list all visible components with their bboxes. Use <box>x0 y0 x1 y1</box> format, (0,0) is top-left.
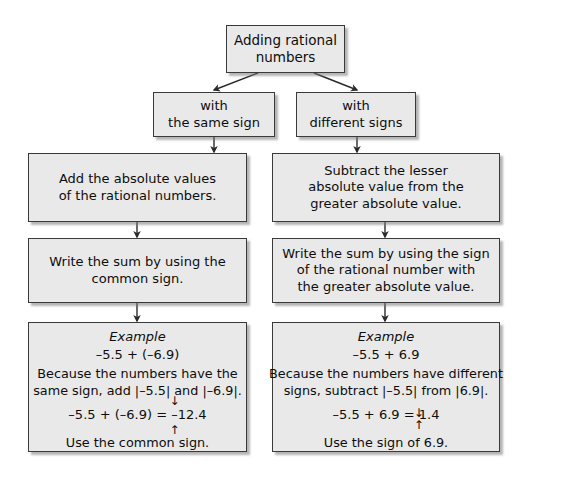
up-arrow-icon: ↑ <box>169 424 179 436</box>
left-example-footnote: Use the common sign. <box>66 435 209 451</box>
node-left-example: Example –5.5 + (–6.9) Because the number… <box>28 322 247 452</box>
flowchart-canvas: Adding rational numbers with the same si… <box>0 0 576 480</box>
node-root: Adding rational numbers <box>226 25 345 73</box>
right-branch-line-1: with <box>342 98 370 115</box>
right-step2-line-2: of the rational number with <box>297 262 476 279</box>
node-left-branch-label: with the same sign <box>153 92 275 137</box>
node-left-step-2: Write the sum by using the common sign. <box>28 238 247 303</box>
right-example-footnote: Use the sign of 6.9. <box>324 435 448 451</box>
left-example-heading: Example <box>109 329 165 346</box>
right-example-result: –5.5 + 6.9 = ↓↑1.4 <box>333 407 440 424</box>
node-right-branch-label: with different signs <box>296 92 416 137</box>
right-example-expression: –5.5 + 6.9 <box>352 347 419 364</box>
right-step1-line-3: greater absolute value. <box>310 196 462 213</box>
left-example-expression: –5.5 + (–6.9) <box>96 347 180 364</box>
left-step2-line-1: Write the sum by using the <box>49 254 225 271</box>
left-example-body-line-1: Because the numbers have the <box>37 366 237 382</box>
right-step1-line-1: Subtract the lesser <box>324 163 448 180</box>
left-step1-line-2: of the rational numbers. <box>59 188 217 205</box>
root-line-1: Adding rational <box>234 32 337 49</box>
node-right-step-1: Subtract the lesser absolute value from … <box>272 153 500 222</box>
node-right-example: Example –5.5 + 6.9 Because the numbers h… <box>272 322 500 452</box>
left-example-result: –5.5 + (–6.9) = ↓–↑12.4 <box>68 407 206 424</box>
node-right-step-2: Write the sum by using the sign of the r… <box>272 238 500 303</box>
right-step2-line-1: Write the sum by using the sign <box>282 246 489 263</box>
left-example-result-value: 12.4 <box>178 407 207 422</box>
right-example-body-line-2: signs, subtract |–5.5| from |6.9|. <box>284 383 489 399</box>
left-step2-line-2: common sign. <box>92 271 184 288</box>
right-branch-line-2: different signs <box>310 115 403 132</box>
right-example-result-prefix: –5.5 + 6.9 = <box>333 407 419 422</box>
left-step1-line-1: Add the absolute values <box>59 171 216 188</box>
right-step1-line-2: absolute value from the <box>308 179 463 196</box>
root-line-2: numbers <box>256 49 316 66</box>
down-arrow-icon: ↓ <box>169 395 179 407</box>
right-example-body-line-1: Because the numbers have different <box>269 366 503 382</box>
left-example-result-prefix: –5.5 + (–6.9) = <box>68 407 171 422</box>
right-step2-line-3: the greater absolute value. <box>298 279 475 296</box>
left-branch-line-1: with <box>200 98 228 115</box>
left-example-body-line-2: same sign, add |–5.5| and |–6.9|. <box>33 383 242 399</box>
up-arrow-icon: ↑ <box>414 419 424 431</box>
node-left-step-1: Add the absolute values of the rational … <box>28 153 247 222</box>
left-example-sign-marker: ↓–↑ <box>171 407 178 424</box>
right-example-heading: Example <box>358 329 414 346</box>
left-example-result-sign: – <box>171 407 178 422</box>
left-branch-line-2: the same sign <box>168 115 260 132</box>
